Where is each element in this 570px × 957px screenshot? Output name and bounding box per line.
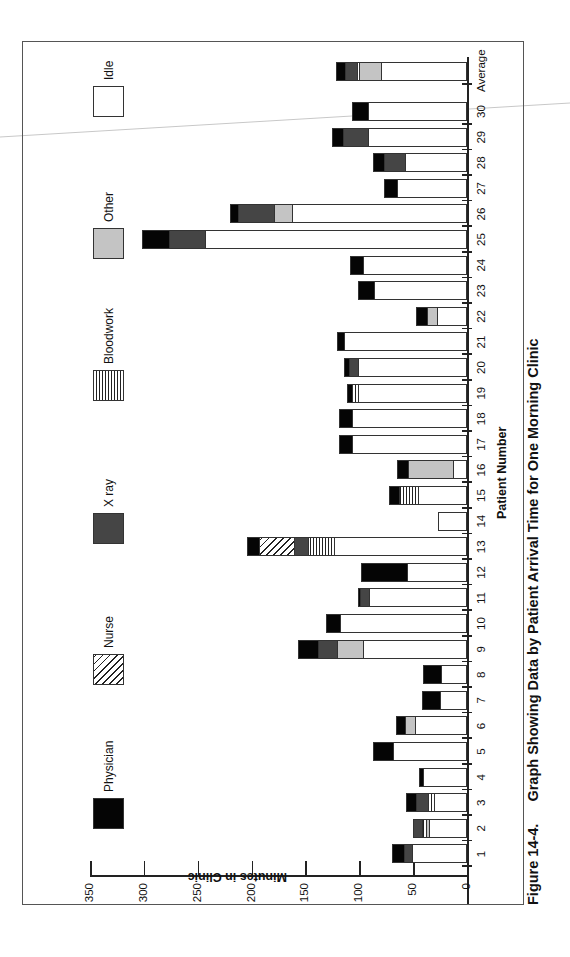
x-tick (462, 840, 472, 842)
bar-patient-29 (332, 128, 467, 147)
x-tick (462, 302, 472, 304)
x-tick (462, 251, 472, 253)
segment-idle (293, 205, 467, 224)
segment-phys (361, 563, 407, 582)
segment-phys (336, 63, 347, 82)
legend-item-nurse: Nurse (93, 616, 124, 685)
bar-patient-2 (413, 819, 467, 838)
figure-caption: Graph Showing Data by Patient Arrival Ti… (525, 338, 541, 801)
segment-idle (382, 63, 467, 82)
segment-phys (298, 640, 320, 659)
segment-idle (430, 819, 467, 838)
segment-phys (142, 230, 170, 249)
segment-phys (332, 128, 344, 147)
segment-idle (359, 384, 467, 403)
segment-phys (247, 537, 260, 556)
y-tick-label: 250 (191, 883, 203, 913)
x-tick (462, 507, 472, 509)
segment-idle (345, 333, 467, 352)
x-tick (462, 174, 472, 176)
bar-patient-19 (347, 384, 467, 403)
y-tick (359, 861, 361, 877)
x-tick-label: Average (475, 52, 487, 92)
x-tick (462, 738, 472, 740)
bar-patient-12 (361, 563, 467, 582)
figure-title: Figure 14-4. Graph Showing Data by Patie… (525, 338, 541, 905)
segment-idle (364, 640, 467, 659)
x-tick (462, 866, 472, 868)
segment-phys (392, 845, 405, 864)
x-tick (462, 328, 472, 330)
x-tick (462, 354, 472, 356)
y-tick-label: 200 (245, 883, 257, 913)
bar-patient-14 (438, 512, 467, 531)
segment-blood (309, 537, 335, 556)
bar-patient-6 (396, 717, 467, 736)
x-tick-label: 30 (475, 92, 487, 132)
y-tick-label: 300 (137, 883, 149, 913)
x-tick (462, 200, 472, 202)
bar-patient-26 (230, 205, 467, 224)
segment-xray (295, 537, 309, 556)
segment-other (409, 461, 454, 480)
segment-idle (454, 461, 467, 480)
segment-xray (385, 153, 405, 172)
legend-label: Physician (102, 741, 116, 792)
segment-phys (416, 307, 428, 326)
bar-patient-28 (373, 153, 467, 172)
x-tick (462, 405, 472, 407)
segment-other (428, 307, 438, 326)
x-tick (462, 789, 472, 791)
segment-xray (319, 640, 337, 659)
y-tick (144, 861, 146, 877)
segment-phys (373, 153, 385, 172)
segment-xray (417, 793, 429, 812)
segment-phys (423, 665, 442, 684)
y-axis-title: Minutes in Clinic (188, 870, 287, 884)
segment-idle (398, 179, 467, 198)
segment-phys (352, 102, 369, 121)
bar-patient-25 (142, 230, 467, 249)
chart-frame: IdleOtherBloodworkX rayNursePhysician 05… (22, 41, 524, 905)
y-tick-label: 50 (406, 883, 418, 913)
bar-patient-10 (326, 614, 467, 633)
bar-patient-15 (389, 486, 467, 505)
segment-xray (405, 845, 414, 864)
segment-idle (341, 614, 467, 633)
x-tick (462, 456, 472, 458)
y-tick-label: 100 (352, 883, 364, 913)
legend-label: X ray (102, 479, 116, 507)
x-tick (462, 635, 472, 637)
segment-idle (369, 102, 467, 121)
segment-idle (416, 717, 467, 736)
segment-phys (422, 691, 441, 710)
segment-phys (230, 205, 239, 224)
segment-other (275, 205, 292, 224)
segment-idle (335, 537, 467, 556)
legend-item-idle: Idle (93, 61, 124, 117)
x-tick (462, 558, 472, 560)
bar-patient-24 (350, 256, 467, 275)
legend-label: Nurse (102, 616, 116, 648)
legend-swatch-other (93, 228, 124, 259)
segment-other (406, 717, 417, 736)
bar-patient-11 (358, 589, 467, 608)
segment-other (338, 640, 364, 659)
segment-xray (413, 819, 423, 838)
x-tick (462, 661, 472, 663)
segment-phys (396, 717, 406, 736)
segment-idle (435, 793, 467, 812)
bar-patient-23 (358, 281, 467, 300)
segment-idle (375, 281, 467, 300)
legend-swatch-phys (93, 798, 124, 829)
x-tick (462, 123, 472, 125)
x-tick (462, 379, 472, 381)
y-tick (90, 861, 92, 877)
segment-phys (373, 742, 393, 761)
legend-item-other: Other (93, 192, 124, 259)
segment-phys (339, 435, 353, 454)
segment-xray (344, 128, 369, 147)
bar-patient-5 (373, 742, 467, 761)
segment-idle (364, 256, 467, 275)
bar-patient-3 (406, 793, 467, 812)
